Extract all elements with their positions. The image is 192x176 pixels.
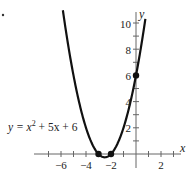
equation-label: y = x2 + 5x + 6: [7, 119, 78, 134]
x-tick-label-neg2: −2: [105, 159, 117, 171]
y-tick-label-4: 4: [126, 96, 132, 108]
y-tick-label-10: 10: [120, 18, 132, 30]
x-axis-label: x: [179, 141, 186, 155]
y-tick-label-8: 8: [126, 44, 132, 56]
equation-suffix: + 5x + 6: [36, 121, 78, 133]
y-tick-label-2: 2: [126, 122, 132, 134]
parabola-curve: [63, 10, 146, 157]
y-tick-label-6: 6: [126, 70, 132, 82]
x-tick-label-2: 2: [158, 159, 164, 171]
intercept-point: [133, 72, 139, 78]
intercept-point: [95, 151, 101, 157]
equation-prefix: y = x: [7, 121, 33, 134]
y-axis-label: y: [138, 7, 145, 21]
x-tick-label-neg6: −6: [55, 159, 67, 171]
x-tick-label-neg4: −4: [80, 159, 92, 171]
parabola-chart: −6 −4 −2 2 2 4 6 8 10 x y y = x2 + 5x + …: [0, 0, 192, 176]
bullet-mark: [2, 14, 4, 16]
intercept-point: [108, 151, 114, 157]
